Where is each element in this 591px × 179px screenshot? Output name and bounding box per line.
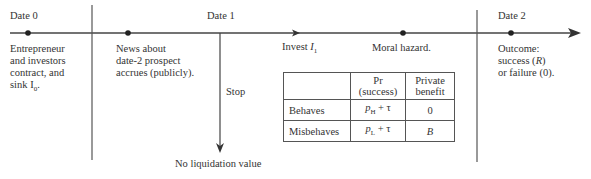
table-header-pr: Pr(success) bbox=[351, 73, 406, 100]
event-dot-moral-hazard bbox=[400, 30, 406, 36]
moral-hazard-label: Moral hazard. bbox=[372, 42, 431, 54]
invest-label: Invest I1 bbox=[282, 41, 317, 57]
stop-label: Stop bbox=[226, 86, 245, 98]
moral-hazard-table: Pr(success) Privatebenefit Behaves pH + … bbox=[283, 72, 455, 142]
event-dot-outcome bbox=[508, 30, 514, 36]
outcome-text: Outcome: success (R) or failure (0). bbox=[498, 43, 554, 79]
date0-event-text: Entrepreneur and investors contract, and… bbox=[10, 43, 66, 95]
table-row: Misbehaves pL + τ B bbox=[284, 121, 455, 142]
table-row: Behaves pH + τ 0 bbox=[284, 100, 455, 121]
news-event-text: News about date-2 prospect accrues (publ… bbox=[116, 43, 194, 79]
date-1-label: Date 1 bbox=[207, 10, 235, 22]
table-corner-cell bbox=[284, 73, 351, 100]
event-dot-contract bbox=[25, 30, 31, 36]
table-header-benefit: Privatebenefit bbox=[406, 73, 455, 100]
date-2-label: Date 2 bbox=[498, 10, 526, 22]
date-0-label: Date 0 bbox=[10, 10, 38, 22]
table-header-row: Pr(success) Privatebenefit bbox=[284, 73, 455, 100]
event-dot-news bbox=[125, 30, 131, 36]
no-liquidation-label: No liquidation value bbox=[175, 158, 261, 170]
